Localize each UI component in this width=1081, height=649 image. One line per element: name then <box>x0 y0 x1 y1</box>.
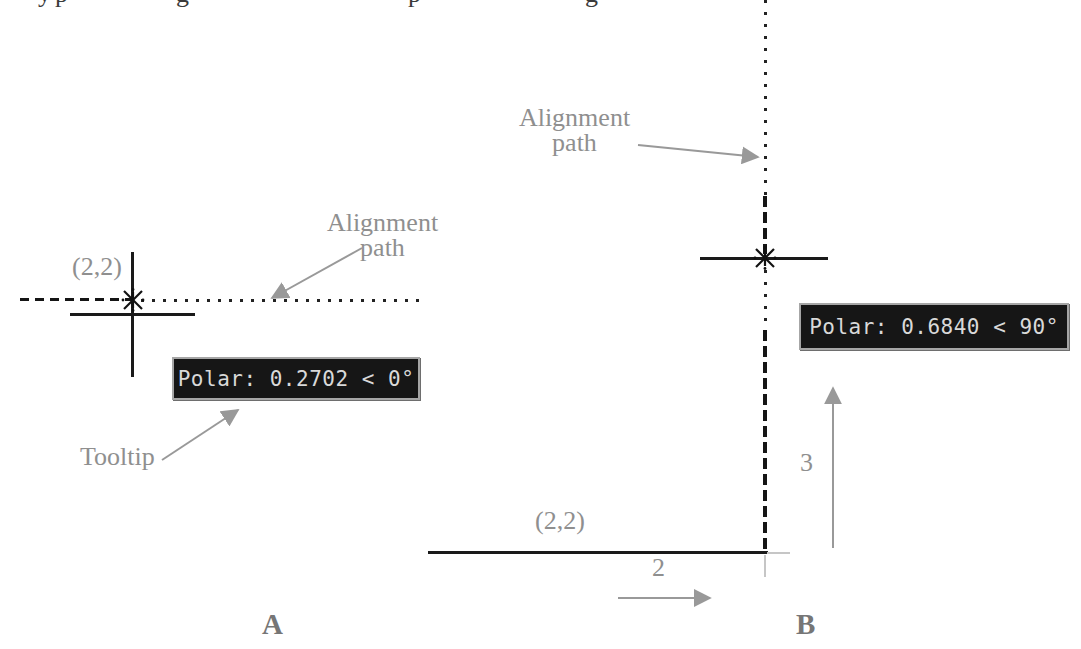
polar-tooltip-a: Polar: 0.2702 < 0° <box>172 357 420 400</box>
rubber-band-b-lower <box>763 330 767 552</box>
alignment-path-arrow-a <box>250 238 372 308</box>
alignment-path-b-upper <box>764 0 767 196</box>
alignment-path-b-mid <box>764 270 767 330</box>
alignment-path-callout-b-line1: Alignment <box>512 105 637 130</box>
text-fragment: g <box>585 0 598 7</box>
tooltip-callout-label-a: Tooltip <box>80 444 155 469</box>
snap-marker-icon <box>120 287 146 313</box>
figure-label-b: B <box>796 608 815 641</box>
horizontal-distance-arrow-b <box>610 584 722 612</box>
text-fragment: p <box>55 0 68 7</box>
drawn-segment-b <box>428 551 768 554</box>
crosshair-horizontal-a <box>70 313 195 316</box>
point-label-b: (2,2) <box>535 508 585 533</box>
horizontal-distance-label-b: 2 <box>652 555 665 580</box>
figure-label-a: A <box>262 608 283 641</box>
alignment-path-callout-a-line1: Alignment <box>320 210 445 235</box>
extension-tick-h <box>767 552 790 554</box>
text-fragment: y <box>38 0 51 7</box>
drawn-segment-a <box>20 298 132 301</box>
text-fragment: g <box>176 0 189 7</box>
text-fragment: p <box>408 0 421 7</box>
alignment-path-arrow-b <box>632 133 768 165</box>
point-label-a: (2,2) <box>72 254 122 279</box>
vertical-distance-arrow-b <box>819 376 847 554</box>
polar-tooltip-b: Polar: 0.6840 < 90° <box>799 303 1069 350</box>
alignment-path-callout-b: Alignment path <box>512 105 637 155</box>
extension-tick-v <box>764 555 766 577</box>
snap-marker-icon <box>752 245 778 271</box>
vertical-distance-label-b: 3 <box>800 450 813 475</box>
alignment-path-callout-b-line2: path <box>512 130 637 155</box>
figure-canvas: y p g p g (2,2) Alignment path Polar <box>0 0 1081 649</box>
tooltip-arrow-a <box>152 398 248 470</box>
cropped-text-strip: y p g p g <box>0 0 1081 7</box>
